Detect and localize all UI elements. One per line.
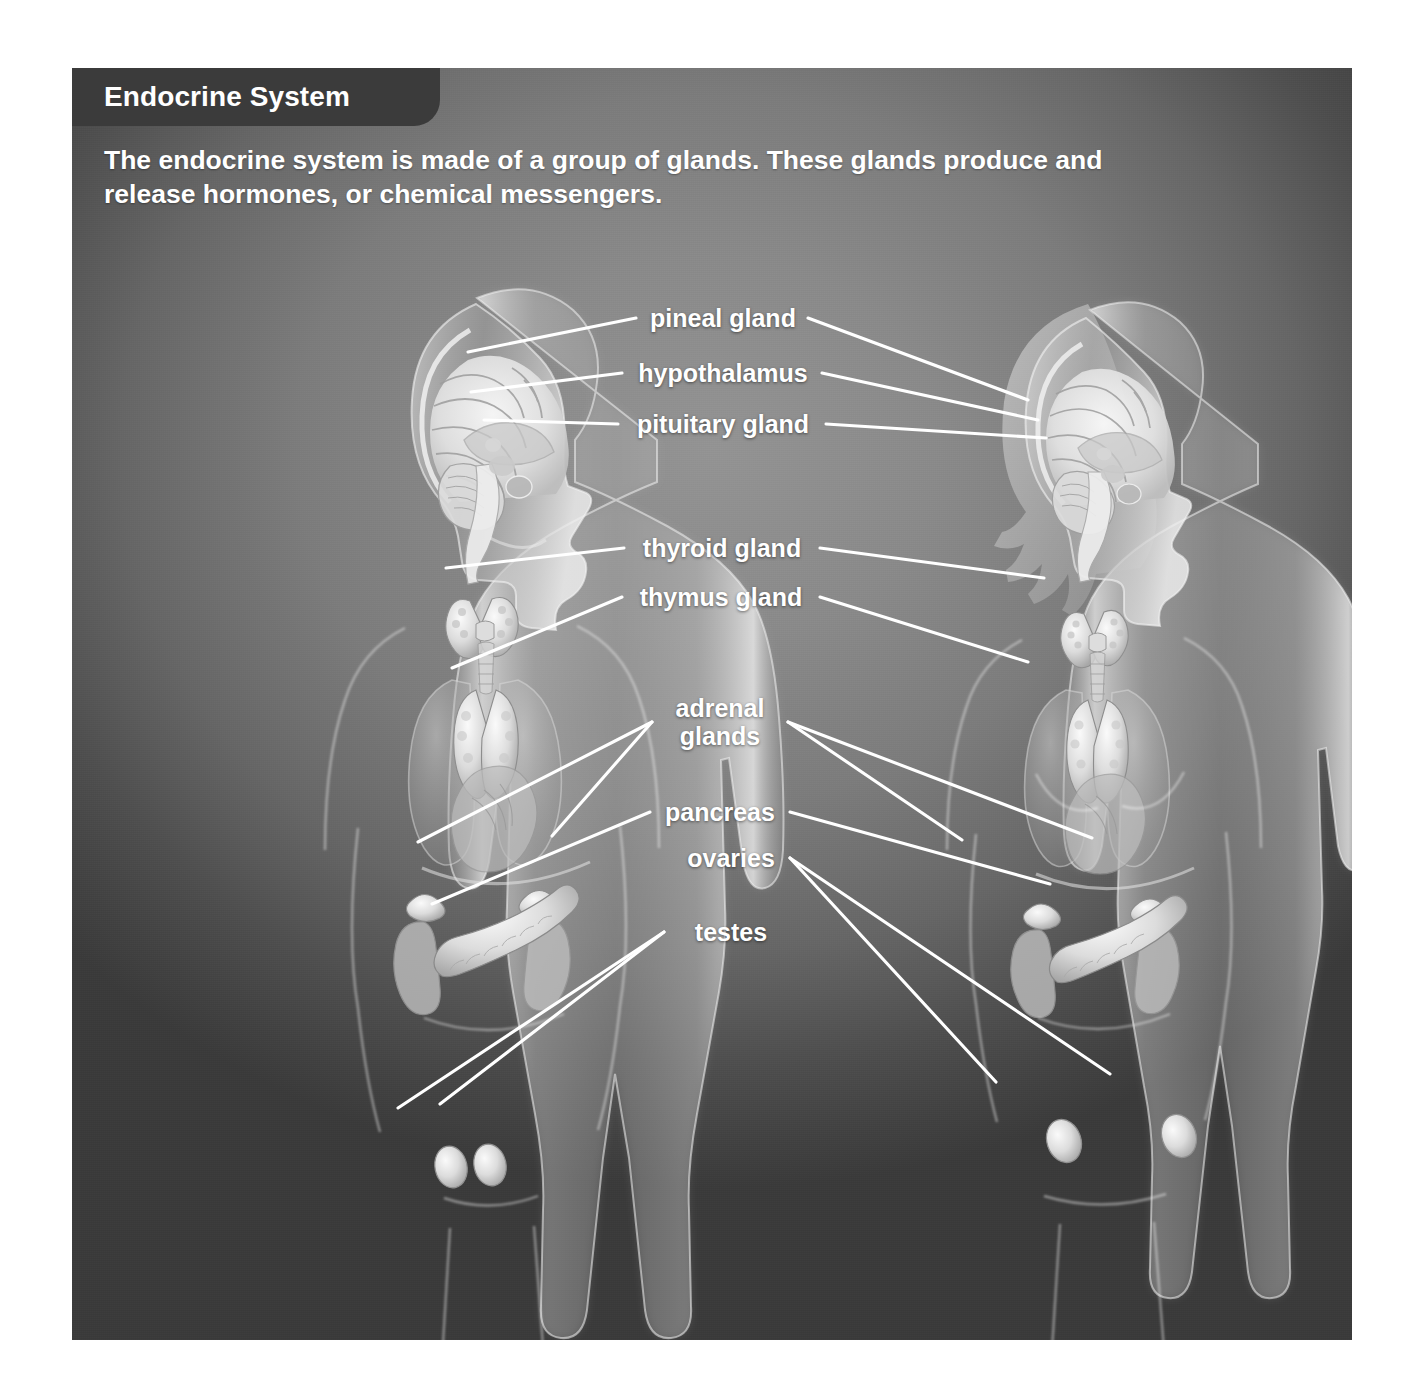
label-thyroid-gland: thyroid gland [628,534,816,562]
label-testes: testes [684,918,778,946]
label-thymus-gland: thymus gland [626,583,816,611]
panel-title-tab: Endocrine System [72,68,440,126]
male-pineal-organ [485,438,501,452]
female-pineal-organ [1097,448,1112,461]
male-testes-organs [431,1141,510,1191]
label-pituitary-gland: pituitary gland [622,410,824,438]
male-hypothalamus-organ [489,456,515,476]
label-pancreas: pancreas [654,798,786,826]
diagram-root: Endocrine System The endocrine system is… [0,0,1424,1392]
female-pituitary-organ [1117,484,1141,504]
female-hypothalamus-organ [1101,465,1125,483]
male-pituitary-organ [506,476,532,498]
label-hypothalamus: hypothalamus [626,359,820,387]
label-adrenal-glands: adrenal glands [656,694,784,750]
page-title: Endocrine System [104,81,350,113]
intro-paragraph: The endocrine system is made of a group … [104,144,1154,212]
label-ovaries: ovaries [676,844,786,872]
female-figure [947,302,1352,1340]
label-pineal-gland: pineal gland [640,304,806,332]
